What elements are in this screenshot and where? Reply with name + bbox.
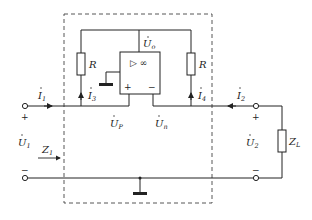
svg-text:U2: U2 [246,137,259,150]
svg-text:Uo: Uo [143,38,155,51]
port2-minus-sign: − [252,165,260,175]
opamp-plus: + [124,82,132,92]
svg-text:I4: I4 [197,90,206,103]
resistor-left [77,53,85,75]
label-Un: Un [155,115,168,131]
label-I3: I3 [87,87,96,103]
port2-plus-sign: + [252,112,260,122]
load-impedance [278,130,286,152]
label-U2: U2 [246,134,259,150]
svg-text:UP: UP [110,118,123,131]
opamp-minus: − [148,82,156,92]
circuit-diagram: ▷ ∞ + − Uo R R I1 I3 I4 I2 UP Un + U1 − … [0,0,312,220]
feedback-wire [81,30,191,52]
label-I1: I1 [37,87,46,103]
resistor-right [187,53,195,75]
label-UP: UP [110,115,123,131]
port1-minus-terminal[interactable] [22,175,27,180]
svg-text:I1: I1 [37,90,46,103]
ground-symbol [133,192,147,195]
label-Z1: Z1 [41,144,53,157]
label-ZL: ZL [288,136,300,149]
label-R-left: R [88,59,97,70]
svg-text:I2: I2 [236,90,245,103]
port1-minus-sign: − [21,165,29,175]
svg-text:Un: Un [155,118,168,131]
two-port-boundary [64,14,212,203]
label-I4: I4 [197,87,206,103]
label-R-right: R [198,59,207,70]
label-I2: I2 [236,87,245,103]
label-U0: Uo [143,36,155,51]
svg-text:U1: U1 [18,137,31,150]
svg-text:ZL: ZL [288,136,300,149]
svg-text:I3: I3 [87,90,96,103]
port2-minus-terminal[interactable] [253,175,258,180]
svg-text:Z1: Z1 [41,144,53,157]
opamp-symbol: ▷ ∞ [130,58,147,68]
opamp-ground-symbol [99,83,113,86]
port2-plus-terminal[interactable] [253,103,258,108]
label-U1: U1 [18,134,31,150]
port1-plus-sign: + [21,112,29,122]
port1-plus-terminal[interactable] [22,103,27,108]
